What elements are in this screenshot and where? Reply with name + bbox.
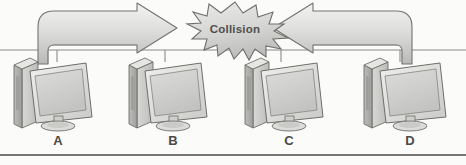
computer-b	[129, 58, 207, 131]
node-label-b: B	[161, 133, 185, 148]
collision-label: Collision	[190, 23, 280, 35]
frame-from-a-arrow	[38, 3, 177, 64]
node-label-c: C	[277, 133, 301, 148]
node-label-a: A	[46, 133, 70, 148]
computer-d	[364, 58, 446, 131]
diagram-canvas: Collision A B C D	[0, 0, 466, 165]
node-label-d: D	[398, 133, 422, 148]
frame-from-d-arrow	[273, 3, 412, 64]
computer-c	[245, 58, 323, 131]
computer-a	[14, 58, 92, 131]
